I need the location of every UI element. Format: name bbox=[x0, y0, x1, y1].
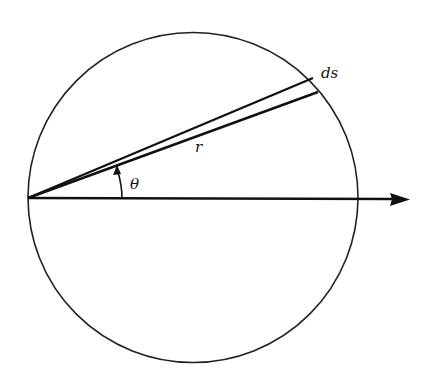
diagram-canvas: ds r θ bbox=[0, 0, 435, 375]
radius-upper bbox=[28, 78, 313, 198]
horizontal-axis bbox=[28, 198, 395, 199]
radius-lower bbox=[28, 92, 318, 198]
axis-arrowhead-icon bbox=[390, 193, 410, 206]
label-theta: θ bbox=[130, 175, 139, 193]
label-r: r bbox=[195, 138, 203, 156]
angle-arc bbox=[118, 172, 122, 198]
label-ds: ds bbox=[321, 64, 339, 82]
